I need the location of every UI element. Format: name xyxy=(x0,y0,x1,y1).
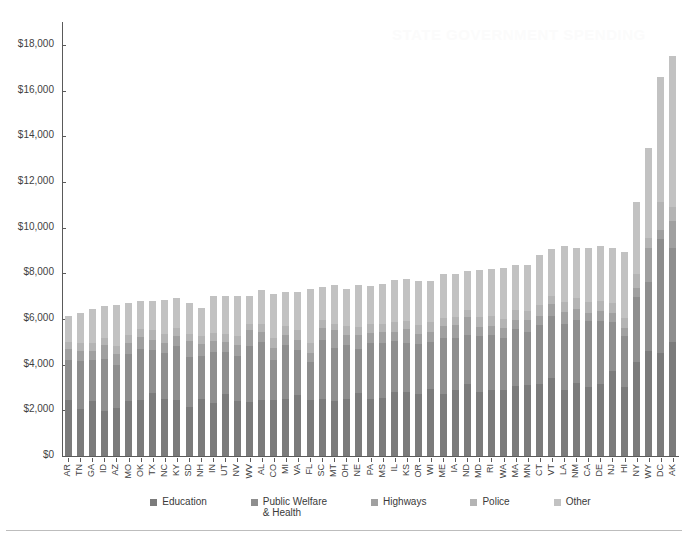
bar-al[interactable] xyxy=(258,22,265,456)
bar-nd[interactable] xyxy=(464,22,471,456)
bar-mn[interactable] xyxy=(524,22,531,456)
bar-ms[interactable] xyxy=(379,22,386,456)
bar-segment-education xyxy=(89,401,96,456)
bar-ak[interactable] xyxy=(669,22,676,456)
x-axis-tick-mark xyxy=(419,458,420,462)
legend-item-police[interactable]: Police xyxy=(470,496,509,507)
bar-md[interactable] xyxy=(476,22,483,456)
bar-la[interactable] xyxy=(561,22,568,456)
bar-segment-other xyxy=(307,289,314,343)
bar-id[interactable] xyxy=(101,22,108,456)
bar-tx[interactable] xyxy=(149,22,156,456)
bar-ca[interactable] xyxy=(585,22,592,456)
bar-segment-other xyxy=(210,296,217,333)
x-axis-label-sc: SC xyxy=(318,464,325,477)
bar-nh[interactable] xyxy=(198,22,205,456)
bar-segment-other xyxy=(633,202,640,274)
bar-va[interactable] xyxy=(294,22,301,456)
x-axis-label-nv: NV xyxy=(233,464,240,477)
bar-co[interactable] xyxy=(270,22,277,456)
bar-mi[interactable] xyxy=(282,22,289,456)
bar-segment-public-welfare-health xyxy=(379,343,386,398)
bar-ma[interactable] xyxy=(512,22,519,456)
bar-segment-police xyxy=(548,296,555,304)
x-axis-tick-mark xyxy=(661,458,662,462)
bar-segment-other xyxy=(415,281,422,324)
bar-vt[interactable] xyxy=(548,22,555,456)
bar-wv[interactable] xyxy=(246,22,253,456)
bar-segment-other xyxy=(222,296,229,334)
bar-de[interactable] xyxy=(597,22,604,456)
bar-nc[interactable] xyxy=(161,22,168,456)
bar-segment-public-welfare-health xyxy=(89,360,96,401)
bar-tn[interactable] xyxy=(77,22,84,456)
bar-nv[interactable] xyxy=(234,22,241,456)
bar-ut[interactable] xyxy=(222,22,229,456)
bar-ga[interactable] xyxy=(89,22,96,456)
bar-fl[interactable] xyxy=(307,22,314,456)
bar-ar[interactable] xyxy=(65,22,72,456)
bar-segment-public-welfare-health xyxy=(669,248,676,342)
bar-dc[interactable] xyxy=(657,22,664,456)
bar-segment-other xyxy=(258,290,265,323)
bar-wy[interactable] xyxy=(645,22,652,456)
bar-segment-education xyxy=(101,411,108,456)
bar-segment-public-welfare-health xyxy=(125,354,132,401)
bar-ky[interactable] xyxy=(173,22,180,456)
bar-ri[interactable] xyxy=(488,22,495,456)
bar-in[interactable] xyxy=(210,22,217,456)
bar-nj[interactable] xyxy=(609,22,616,456)
bar-segment-police xyxy=(379,324,386,332)
bar-mo[interactable] xyxy=(125,22,132,456)
bar-ks[interactable] xyxy=(403,22,410,456)
bar-nm[interactable] xyxy=(573,22,580,456)
bar-ny[interactable] xyxy=(633,22,640,456)
bar-segment-public-welfare-health xyxy=(585,321,592,387)
bar-segment-education xyxy=(536,384,543,456)
bar-segment-other xyxy=(137,301,144,330)
bar-or[interactable] xyxy=(415,22,422,456)
bar-hi[interactable] xyxy=(621,22,628,456)
bar-segment-public-welfare-health xyxy=(367,343,374,399)
bar-az[interactable] xyxy=(113,22,120,456)
bar-oh[interactable] xyxy=(343,22,350,456)
bar-segment-other xyxy=(282,292,289,326)
bar-wi[interactable] xyxy=(427,22,434,456)
x-axis-tick-mark xyxy=(479,458,480,462)
bar-me[interactable] xyxy=(440,22,447,456)
bar-segment-police xyxy=(246,324,253,331)
bar-ne[interactable] xyxy=(355,22,362,456)
legend-item-highways[interactable]: Highways xyxy=(371,496,426,507)
x-axis-label-ok: OK xyxy=(137,464,144,477)
bar-sc[interactable] xyxy=(319,22,326,456)
state-spending-chart: STATE GOVERNMENT SPENDING $0$2,000$4,000… xyxy=(0,0,688,541)
bar-sd[interactable] xyxy=(186,22,193,456)
bar-segment-highways xyxy=(440,326,447,339)
bar-segment-police xyxy=(367,324,374,333)
bar-segment-other xyxy=(524,265,531,311)
x-axis-label-ak: AK xyxy=(669,464,676,476)
bar-segment-other xyxy=(173,298,180,328)
bar-segment-police xyxy=(149,330,156,339)
bar-pa[interactable] xyxy=(367,22,374,456)
bar-segment-police xyxy=(89,343,96,351)
bar-segment-highways xyxy=(367,333,374,343)
bar-segment-highways xyxy=(476,327,483,336)
legend-label: Police xyxy=(482,496,509,507)
legend-item-other[interactable]: Other xyxy=(554,496,591,507)
bar-segment-public-welfare-health xyxy=(173,346,180,400)
bar-ct[interactable] xyxy=(536,22,543,456)
bar-segment-highways xyxy=(222,342,229,352)
bar-mt[interactable] xyxy=(331,22,338,456)
legend-item-public-welfare-health[interactable]: Public Welfare & Health xyxy=(251,496,327,518)
bar-wa[interactable] xyxy=(500,22,507,456)
x-axis-label-fl: FL xyxy=(306,464,313,475)
x-axis-label-de: DE xyxy=(596,464,603,477)
legend-item-education[interactable]: Education xyxy=(150,496,206,507)
bar-segment-other xyxy=(270,294,277,339)
bar-segment-other xyxy=(125,303,132,335)
bar-ok[interactable] xyxy=(137,22,144,456)
bar-ia[interactable] xyxy=(452,22,459,456)
x-axis-tick-mark xyxy=(141,458,142,462)
bar-il[interactable] xyxy=(391,22,398,456)
